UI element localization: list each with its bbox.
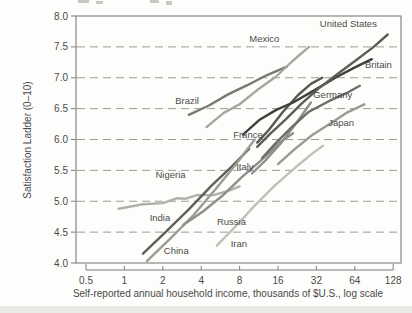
- y-tick-label: 4.5: [54, 227, 68, 238]
- x-tick-label: 64: [349, 275, 361, 286]
- series-label-iran: Iran: [231, 238, 247, 249]
- series-label-britain: Britain: [365, 59, 392, 70]
- series-label-germany: Germany: [313, 89, 352, 100]
- x-tick-label: 16: [272, 275, 284, 286]
- series-line-iran: [217, 146, 323, 246]
- y-tick-label: 6.0: [54, 134, 68, 145]
- y-tick-label: 5.5: [54, 165, 68, 176]
- x-tick-label: 4: [198, 275, 204, 286]
- series-label-russia: Russia: [217, 216, 247, 227]
- series-label-japan: Japan: [328, 117, 354, 128]
- x-tick-label: 8: [237, 275, 243, 286]
- satisfaction-income-figure: 8.07.57.06.56.05.55.04.54.00.51248163264…: [0, 0, 412, 313]
- y-tick-label: 6.5: [54, 103, 68, 114]
- series-label-france: France: [233, 129, 263, 140]
- series-label-nigeria: Nigeria: [155, 169, 186, 180]
- x-tick-label: 32: [311, 275, 323, 286]
- y-tick-label: 4.0: [54, 258, 68, 269]
- series-label-united-states: United States: [320, 18, 377, 29]
- series-line-mexico: [207, 47, 310, 127]
- y-tick-label: 8.0: [54, 11, 68, 22]
- page-edge-strip: [0, 306, 412, 313]
- series-label-india: India: [150, 212, 171, 223]
- series-label-italy: Italy: [236, 161, 254, 172]
- series-label-mexico: Mexico: [249, 33, 279, 44]
- y-tick-label: 7.0: [54, 72, 68, 83]
- x-axis-title: Self-reported annual household income, t…: [73, 288, 384, 299]
- x-tick-label: 2: [160, 275, 166, 286]
- satisfaction-income-chart: 8.07.57.06.56.05.55.04.54.00.51248163264…: [0, 0, 412, 313]
- x-tick-label: 1: [122, 275, 128, 286]
- series-label-brazil: Brazil: [175, 95, 199, 106]
- series-line-brazil: [189, 67, 287, 115]
- y-tick-label: 7.5: [54, 41, 68, 52]
- x-tick-label: 128: [385, 275, 402, 286]
- y-axis-title: Satisfaction Ladder (0–10): [22, 81, 33, 198]
- y-tick-label: 5.0: [54, 196, 68, 207]
- x-tick-label: 0.5: [79, 275, 93, 286]
- series-label-china: China: [164, 245, 190, 256]
